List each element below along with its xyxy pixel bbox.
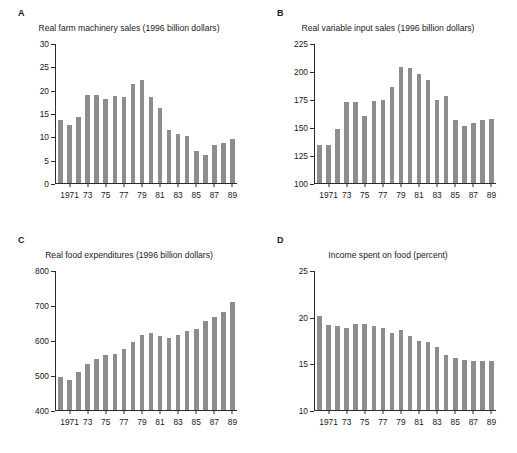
bar [212,145,217,183]
y-axis-tick [51,161,55,162]
bar [344,328,349,410]
y-axis-tick [51,67,55,68]
y-axis-tick [310,72,314,73]
panel-title: Real food expenditures (1996 billion dol… [0,250,258,261]
bar-item: 87 [210,271,219,410]
bar [471,123,476,183]
panel-b: BReal variable input sales (1996 billion… [259,0,517,226]
x-axis-tick-label: 85 [192,191,201,200]
bar-item [201,44,210,183]
y-axis-tick [51,306,55,307]
x-axis-tick-label: 75 [360,191,369,200]
bar [131,342,136,410]
bar [76,372,81,410]
bar-item: 79 [396,44,405,183]
panel-c: CReal food expenditures (1996 billion do… [0,227,258,453]
x-axis-tick-label: 85 [192,418,201,427]
x-axis-tick [455,410,456,414]
y-axis-tick-label: 30 [40,40,49,48]
panel-title: Real variable input sales (1996 billion … [259,23,517,34]
plot-area: 4005006007008001971737577798183858789 [55,271,237,411]
bar-item [110,271,119,410]
bar [203,321,208,410]
bar [408,336,413,410]
bar [131,84,136,183]
bar-item: 73 [342,44,351,183]
bar [372,101,377,183]
bar [85,95,90,183]
bar-item: 81 [156,271,165,410]
bar [149,333,154,410]
bar-item: 75 [360,44,369,183]
x-axis-tick [364,410,365,414]
bar [167,338,172,410]
bar [426,342,431,410]
x-axis-tick [69,183,70,187]
bar [444,355,449,410]
bar [444,96,449,183]
bar [335,326,340,410]
bar [85,364,90,410]
bar [480,120,485,183]
x-axis-tick [105,183,106,187]
plot-area: 1001251501752002251971737577798183858789 [314,44,496,184]
bar [362,324,367,410]
x-axis-tick [69,410,70,414]
y-axis-tick-label: 800 [35,267,49,275]
bar-item [351,44,360,183]
bar [453,358,458,410]
x-axis-tick-label: 87 [469,191,478,200]
bar-item: 89 [487,44,496,183]
bar-item: 73 [342,271,351,410]
x-axis-tick [419,410,420,414]
bar [489,119,494,183]
bar-item [442,44,451,183]
bar [353,324,358,410]
bar-item [405,271,414,410]
y-axis-tick [310,411,314,412]
y-axis-tick-label: 15 [40,110,49,118]
x-axis-tick [473,410,474,414]
x-axis-tick [419,183,420,187]
x-axis-tick-label: 1971 [319,418,338,427]
bar [167,130,172,183]
bar [113,354,118,410]
bar [58,377,63,410]
x-axis-tick [491,410,492,414]
bar-item [424,271,433,410]
bar-item [219,44,228,183]
bar [390,87,395,183]
bar [94,95,99,183]
y-axis-tick-label: 10 [299,407,308,415]
y-axis-tick [310,318,314,319]
y-axis-tick-label: 600 [35,337,49,345]
bar-series: 1971737577798183858789 [315,271,496,410]
bar-item: 87 [469,271,478,410]
x-axis-tick-label: 85 [451,191,460,200]
bar-item [424,44,433,183]
bar [353,102,358,183]
bar [381,100,386,183]
bar-item: 85 [192,44,201,183]
x-axis-tick-label: 81 [155,418,164,427]
bar-item [92,44,101,183]
y-axis-tick [51,114,55,115]
x-axis-tick-label: 87 [210,418,219,427]
x-axis-tick [87,410,88,414]
bar [221,312,226,410]
bar-item: 75 [360,271,369,410]
bar [149,97,154,183]
bar [158,336,163,410]
bar-item [128,271,137,410]
bar-item [369,271,378,410]
bar-item [183,271,192,410]
y-axis-tick [51,44,55,45]
y-axis-tick [51,271,55,272]
bar-item: 1971 [324,271,333,410]
x-axis-tick-label: 89 [487,191,496,200]
bar-item: 1971 [324,44,333,183]
y-axis-tick-label: 20 [40,87,49,95]
y-axis-tick-label: 400 [35,407,49,415]
x-axis-tick [346,183,347,187]
figure-four-panel-bar-charts: AReal farm machinery sales (1996 billion… [0,0,517,453]
